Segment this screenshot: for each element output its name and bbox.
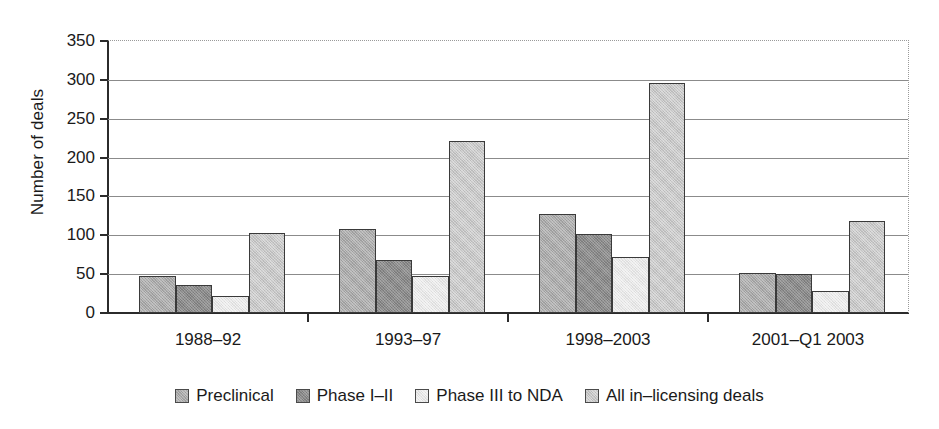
x-axis-category-label: 1998–2003 [565, 330, 650, 350]
y-axis-tick [100, 40, 108, 42]
legend-label: Preclinical [196, 386, 273, 406]
bar-phase-iii-to-nda-1988-92 [212, 296, 249, 313]
plot-right-edge [908, 40, 909, 314]
legend-label: All in–licensing deals [606, 386, 764, 406]
bar-preclinical-2001-Q1-2003 [739, 273, 776, 313]
legend-swatch-icon [296, 389, 310, 403]
bar-all-in-licensing-deals-2001-Q1-2003 [849, 221, 886, 313]
bar-phase-iii-to-nda-1993-97 [412, 276, 449, 313]
y-axis-tick-label: 100 [67, 225, 95, 245]
bar-preclinical-1993-97 [339, 229, 376, 313]
x-axis-category-label: 2001–Q1 2003 [752, 330, 865, 350]
gridline [108, 196, 908, 197]
x-axis-tick [707, 313, 709, 322]
y-axis-tick-label: 50 [76, 264, 95, 284]
plot-top-edge [108, 40, 908, 41]
y-axis-tick [100, 312, 108, 314]
y-axis-tick [100, 273, 108, 275]
x-axis-category-label: 1988–92 [175, 330, 241, 350]
bar-preclinical-1988-92 [139, 276, 176, 313]
legend-item: All in–licensing deals [585, 386, 764, 406]
x-axis-tick [507, 313, 509, 322]
bar-phase-i-ii-1993-97 [376, 260, 413, 313]
legend-item: Preclinical [175, 386, 273, 406]
bar-chart-figure: Number of deals 050100150200250300350 19… [0, 0, 939, 429]
bar-phase-iii-to-nda-1998-2003 [612, 257, 649, 313]
y-axis-tick [100, 118, 108, 120]
y-axis-tick-label: 0 [86, 303, 95, 323]
bar-all-in-licensing-deals-1993-97 [449, 141, 486, 313]
bar-phase-i-ii-1988-92 [176, 285, 213, 313]
legend-item: Phase I–II [296, 386, 394, 406]
legend-swatch-icon [175, 389, 189, 403]
gridline [108, 235, 908, 236]
gridline [108, 80, 908, 81]
bar-phase-iii-to-nda-2001-Q1-2003 [812, 291, 849, 313]
legend-item: Phase III to NDA [415, 386, 563, 406]
y-axis-tick-label: 200 [67, 148, 95, 168]
plot-area: 050100150200250300350 [108, 41, 908, 313]
bar-preclinical-1998-2003 [539, 214, 576, 313]
y-axis-tick [100, 157, 108, 159]
gridline [108, 119, 908, 120]
bar-phase-i-ii-2001-Q1-2003 [776, 274, 813, 313]
legend-swatch-icon [415, 389, 429, 403]
y-axis-tick-label: 350 [67, 31, 95, 51]
y-axis-tick-label: 250 [67, 109, 95, 129]
gridline [108, 158, 908, 159]
y-axis-tick-label: 300 [67, 70, 95, 90]
y-axis-tick [100, 195, 108, 197]
x-axis-tick [307, 313, 309, 322]
y-axis-title: Number of deals [28, 52, 48, 252]
legend-label: Phase III to NDA [436, 386, 563, 406]
y-axis-tick-label: 150 [67, 186, 95, 206]
y-axis-tick [100, 79, 108, 81]
bar-all-in-licensing-deals-1988-92 [249, 233, 286, 313]
x-axis-category-label: 1993–97 [375, 330, 441, 350]
y-axis-tick [100, 234, 108, 236]
legend-label: Phase I–II [317, 386, 394, 406]
legend-swatch-icon [585, 389, 599, 403]
bar-all-in-licensing-deals-1998-2003 [649, 83, 686, 313]
bar-phase-i-ii-1998-2003 [576, 234, 613, 313]
chart-legend: PreclinicalPhase I–IIPhase III to NDAAll… [0, 386, 939, 406]
